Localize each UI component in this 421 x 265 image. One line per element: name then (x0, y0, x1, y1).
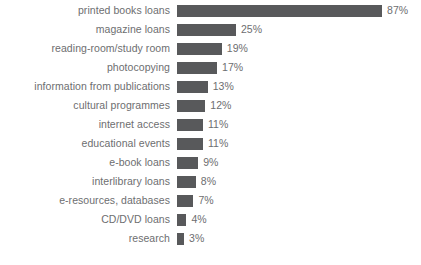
bar-group: 12% (177, 96, 231, 115)
bar-row: internet access11% (0, 115, 421, 134)
bar-group: 19% (177, 39, 248, 58)
bar (177, 119, 203, 131)
value-label: 13% (213, 77, 234, 96)
bar (177, 5, 382, 17)
bar-group: 25% (177, 20, 262, 39)
category-label: reading-room/study room (0, 39, 170, 58)
bar (177, 62, 217, 74)
bar (177, 233, 184, 245)
category-label: photocopying (0, 58, 170, 77)
value-label: 3% (189, 229, 204, 248)
bar (177, 100, 205, 112)
category-label: research (0, 229, 170, 248)
category-label: interlibrary loans (0, 172, 170, 191)
bar (177, 43, 222, 55)
bar (177, 176, 196, 188)
bar-group: 7% (177, 191, 214, 210)
value-label: 19% (227, 39, 248, 58)
bar (177, 138, 203, 150)
category-label: magazine loans (0, 20, 170, 39)
bar-group: 11% (177, 134, 228, 153)
bar (177, 214, 186, 226)
value-label: 25% (241, 20, 262, 39)
category-label: educational events (0, 134, 170, 153)
bar-group: 11% (177, 115, 228, 134)
bar-row: reading-room/study room19% (0, 39, 421, 58)
plot-area: printed books loans87%magazine loans25%r… (0, 0, 421, 265)
value-label: 12% (210, 96, 231, 115)
category-label: CD/DVD loans (0, 210, 170, 229)
bar-group: 3% (177, 229, 204, 248)
value-label: 9% (203, 153, 218, 172)
value-label: 11% (208, 115, 228, 134)
bar (177, 24, 236, 36)
value-label: 17% (222, 58, 243, 77)
bar-row: magazine loans25% (0, 20, 421, 39)
bar-row: research3% (0, 229, 421, 248)
bar (177, 195, 193, 207)
bar-row: educational events11% (0, 134, 421, 153)
bar-row: information from publications13% (0, 77, 421, 96)
value-label: 11% (208, 134, 228, 153)
bar-group: 87% (177, 1, 408, 20)
bar-group: 4% (177, 210, 207, 229)
category-label: e-book loans (0, 153, 170, 172)
category-label: information from publications (0, 77, 170, 96)
bar-row: CD/DVD loans4% (0, 210, 421, 229)
bar-row: photocopying17% (0, 58, 421, 77)
bar-group: 13% (177, 77, 234, 96)
category-label: printed books loans (0, 1, 170, 20)
category-label: e-resources, databases (0, 191, 170, 210)
value-label: 4% (191, 210, 206, 229)
value-label: 8% (201, 172, 216, 191)
bar (177, 157, 198, 169)
value-label: 7% (198, 191, 213, 210)
bar-row: interlibrary loans8% (0, 172, 421, 191)
bar-row: cultural programmes12% (0, 96, 421, 115)
horizontal-bar-chart: printed books loans87%magazine loans25%r… (0, 0, 421, 265)
bar-row: e-resources, databases7% (0, 191, 421, 210)
category-label: cultural programmes (0, 96, 170, 115)
bar (177, 81, 208, 93)
bar-row: printed books loans87% (0, 1, 421, 20)
bar-group: 9% (177, 153, 218, 172)
bar-group: 17% (177, 58, 243, 77)
bar-group: 8% (177, 172, 216, 191)
bar-row: e-book loans9% (0, 153, 421, 172)
value-label: 87% (387, 1, 408, 20)
category-label: internet access (0, 115, 170, 134)
